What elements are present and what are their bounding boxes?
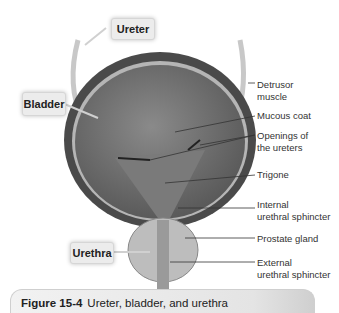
figure-number: Figure 15-4: [21, 297, 82, 309]
callout-bladder: Bladder: [22, 92, 66, 116]
label-detrusor-muscle: Detrusor muscle: [257, 79, 293, 102]
label-prostate-gland: Prostate gland: [257, 233, 318, 245]
figure-caption: Figure 15-4Ureter, bladder, and urethra: [10, 289, 315, 313]
label-external-sphincter: External urethral sphincter: [257, 257, 330, 280]
label-ureter-openings: Openings of the ureters: [257, 130, 308, 153]
label-internal-sphincter: Internal urethral sphincter: [257, 199, 330, 222]
figure-title: Ureter, bladder, and urethra: [87, 297, 228, 309]
label-trigone: Trigone: [257, 169, 289, 181]
callout-urethra: Urethra: [70, 242, 114, 264]
callout-ureter: Ureter: [111, 18, 155, 40]
label-mucous-coat: Mucous coat: [257, 110, 311, 122]
